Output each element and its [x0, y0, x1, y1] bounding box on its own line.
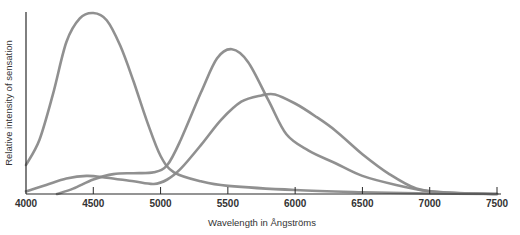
blue-sensation-curve	[26, 13, 497, 194]
x-tick-label: 4000	[15, 198, 38, 209]
x-tick-label: 6500	[351, 198, 374, 209]
x-tick-label: 5500	[217, 198, 240, 209]
x-tick-label: 5000	[149, 198, 172, 209]
curves	[26, 13, 497, 194]
x-tick-label: 7000	[419, 198, 442, 209]
x-tick-label: 4500	[82, 198, 105, 209]
y-axis-label: Relative intensity of sensation	[3, 40, 14, 166]
x-tick-labels: 40004500500055006000650070007500	[15, 198, 509, 209]
x-axis-label: Wavelength in Ångströms	[208, 217, 316, 228]
x-tick-label: 7500	[486, 198, 509, 209]
chart: 40004500500055006000650070007500 Wavelen…	[0, 0, 520, 235]
green-sensation-curve	[57, 49, 497, 194]
x-tick-label: 6000	[284, 198, 307, 209]
